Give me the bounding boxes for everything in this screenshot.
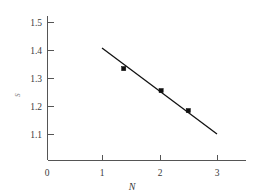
x-axis-ticks — [103, 155, 218, 161]
x-axis-title: N — [128, 181, 137, 192]
y-tick-label: 1.3 — [30, 74, 42, 84]
y-axis-tick-labels: 1.5 1.4 1.3 1.2 1.1 — [30, 18, 42, 140]
y-axis-ticks — [48, 23, 54, 135]
y-axis-title: s — [11, 93, 22, 97]
data-point-marker — [186, 109, 190, 113]
scatter-plot-svg: 1.5 1.4 1.3 1.2 1.1 0 1 2 3 N s — [0, 0, 256, 195]
data-point-marker — [122, 67, 126, 71]
chart-figure: 1.5 1.4 1.3 1.2 1.1 0 1 2 3 N s — [0, 0, 256, 195]
x-tick-label: 2 — [158, 168, 163, 178]
x-tick-label: 1 — [100, 168, 105, 178]
x-axis-tick-labels: 0 1 2 3 — [45, 168, 220, 178]
y-tick-label: 1.2 — [30, 102, 42, 112]
y-tick-label: 1.4 — [30, 46, 42, 56]
axes-group — [48, 16, 247, 161]
x-tick-label: 3 — [215, 168, 220, 178]
y-tick-label: 1.1 — [30, 130, 42, 140]
data-point-marker — [159, 89, 163, 93]
y-tick-label: 1.5 — [30, 18, 42, 28]
x-tick-label: 0 — [45, 168, 50, 178]
